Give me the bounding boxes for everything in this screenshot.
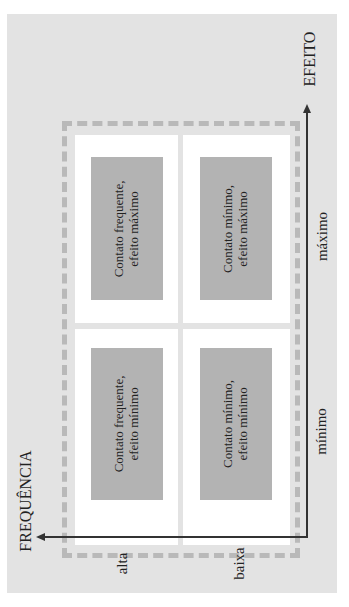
frequency-axis-line <box>42 536 308 538</box>
box-label: Contato mínimo, efeito máximo <box>221 184 251 272</box>
box-label: Contato mínimo, efeito mínimo <box>221 380 251 468</box>
box-frequente-minimo: Contato frequente, efeito mínimo <box>91 348 163 500</box>
box-frequente-maximo: Contato frequente, efeito máximo <box>91 157 163 300</box>
box-label: Contato frequente, efeito mínimo <box>112 376 142 473</box>
box-minimo-maximo: Contato mínimo, efeito máximo <box>200 157 272 300</box>
frequency-axis-title: FREQUÊNCIA <box>17 450 35 551</box>
effect-axis-line <box>306 110 308 538</box>
frequency-axis-arrow-icon <box>36 533 45 541</box>
frequency-low-label: baixa <box>231 547 248 579</box>
effect-min-label: mínimo <box>313 408 330 455</box>
box-label: Contato frequente, efeito máximo <box>112 180 142 277</box>
effect-axis-arrow-icon <box>303 104 311 113</box>
box-minimo-minimo: Contato mínimo, efeito mínimo <box>200 348 272 500</box>
effect-axis-title: EFEITO <box>301 32 319 87</box>
frequency-high-label: alta <box>114 553 131 575</box>
effect-max-label: máximo <box>314 212 331 261</box>
